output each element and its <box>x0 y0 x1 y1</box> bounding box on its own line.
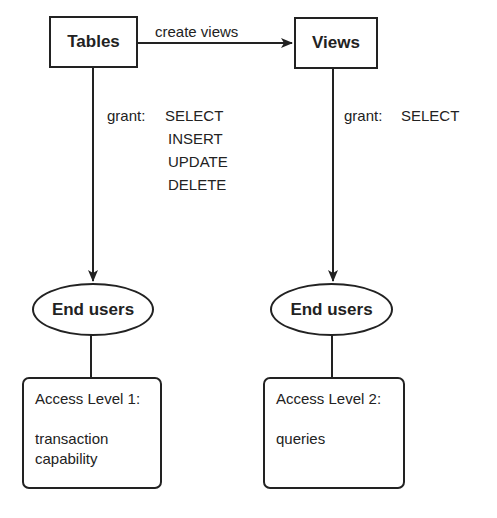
access-level-1-box: Access Level 1: transaction capability <box>22 377 162 489</box>
access-level-2-box: Access Level 2: queries <box>263 377 405 489</box>
permission-list: SELECT INSERT UPDATE DELETE <box>165 104 228 196</box>
permission-list: SELECT <box>401 104 459 127</box>
access-level-2-title: Access Level 2: <box>276 389 403 409</box>
create-views-label: create views <box>155 22 238 41</box>
grant-keyword: grant: <box>107 104 145 127</box>
grant-keyword: grant: <box>344 104 382 127</box>
tables-node: Tables <box>49 16 138 68</box>
access-level-2-line: queries <box>276 429 403 449</box>
permission-select: SELECT <box>165 104 228 127</box>
access-level-1-line: transaction <box>35 429 160 449</box>
permission-select: SELECT <box>401 104 459 127</box>
access-level-1-line: capability <box>35 449 160 469</box>
permission-insert: INSERT <box>165 127 228 150</box>
end-users-left-node: End users <box>32 283 154 336</box>
access-level-1-title: Access Level 1: <box>35 389 160 409</box>
permission-update: UPDATE <box>165 150 228 173</box>
views-node: Views <box>294 17 378 69</box>
end-users-right-node: End users <box>270 283 393 336</box>
permission-delete: DELETE <box>165 173 228 196</box>
